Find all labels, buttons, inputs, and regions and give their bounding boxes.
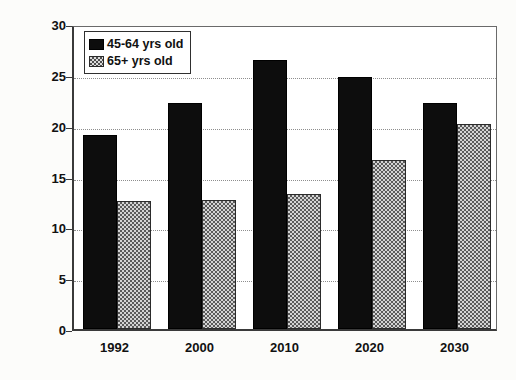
y-tick-label: 15 [28,171,66,186]
legend-entry-0: 45-64 yrs old [89,36,183,52]
chart-legend: 45-64 yrs old 65+ yrs old [84,31,191,74]
y-tick-label: 0 [28,323,66,338]
bar-2000-series-1 [202,200,236,329]
bar-1992-series-0 [83,135,117,329]
y-tick-label: 25 [28,69,66,84]
x-tick-label-2030: 2030 [412,340,497,355]
bar-2000-series-0 [168,103,202,329]
y-tick-label: 10 [28,221,66,236]
bar-2030-series-1 [457,124,491,329]
legend-label-1: 65+ yrs old [107,55,173,68]
legend-entry-1: 65+ yrs old [89,53,183,69]
y-tick-mark [66,331,72,332]
y-tick-label: 20 [28,120,66,135]
legend-swatch-black-icon [89,39,104,50]
bar-2010-series-0 [253,60,287,329]
x-tick-label-2020: 2020 [327,340,412,355]
y-tick-label: 30 [28,18,66,33]
bar-1992-series-1 [117,201,151,329]
legend-label-0: 45-64 yrs old [107,38,183,51]
x-tick-label-2010: 2010 [242,340,327,355]
x-tick-label-1992: 1992 [72,340,157,355]
bar-chart: Percent of Total Population 051015202530… [0,0,516,380]
bar-2010-series-1 [287,194,321,329]
bar-2030-series-0 [423,103,457,329]
bar-2020-series-0 [338,77,372,329]
bar-2020-series-1 [372,160,406,329]
y-tick-label: 5 [28,272,66,287]
x-tick-label-2000: 2000 [157,340,242,355]
legend-swatch-checkered-icon [89,56,104,67]
